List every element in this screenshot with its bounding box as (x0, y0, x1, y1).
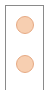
indicator-circle-2[interactable] (16, 55, 34, 73)
indicator-circle-1[interactable] (16, 16, 34, 34)
